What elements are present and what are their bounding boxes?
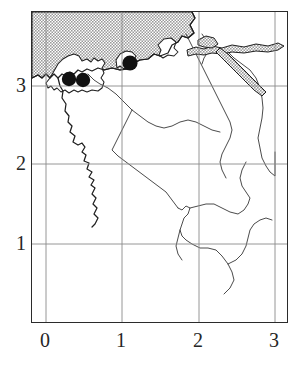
river-southeast-1 xyxy=(178,206,234,294)
x-tick-label-1: 1 xyxy=(116,330,126,350)
river-west-branch xyxy=(88,74,220,132)
shaded-patch-north xyxy=(198,36,218,48)
y-tick-label-1: 1 xyxy=(4,233,26,253)
y-tick-label-2: 2 xyxy=(4,153,26,173)
plot-frame xyxy=(31,11,288,323)
occurrence-point xyxy=(76,73,90,87)
x-tick-label-2: 2 xyxy=(193,330,203,350)
x-tick-label-0: 0 xyxy=(40,330,50,350)
x-tick-label-3: 3 xyxy=(269,330,279,350)
occurrence-point xyxy=(62,72,76,86)
coastline-west-jagged xyxy=(58,78,98,227)
distribution-map-figure: 0 1 2 3 1 2 3 xyxy=(0,0,305,370)
shaded-region-layer xyxy=(32,12,195,93)
shaded-ria-diagonal xyxy=(216,48,266,96)
occurrence-point xyxy=(122,55,137,70)
y-tick-label-3: 3 xyxy=(4,75,26,95)
river-south-lower xyxy=(228,218,272,264)
map-svg xyxy=(32,12,288,323)
